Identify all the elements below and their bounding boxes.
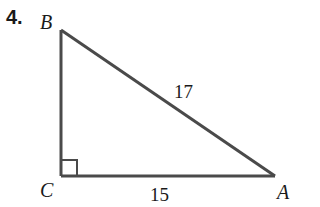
vertex-label-b: B bbox=[40, 12, 52, 32]
side-label-hypotenuse: 17 bbox=[174, 82, 193, 101]
vertex-label-c: C bbox=[40, 180, 53, 200]
side-ab-hypotenuse bbox=[61, 30, 275, 176]
side-label-leg-ca: 15 bbox=[150, 185, 169, 204]
vertex-label-a: A bbox=[277, 182, 289, 202]
triangle-shape bbox=[61, 30, 275, 176]
right-angle-marker bbox=[61, 160, 77, 176]
